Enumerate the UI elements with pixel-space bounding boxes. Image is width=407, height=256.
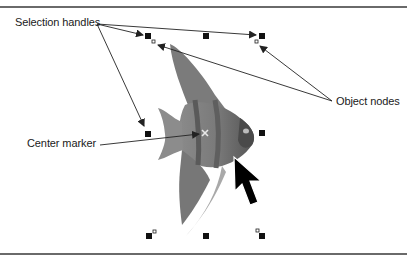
handle-bottom-center[interactable]	[203, 233, 209, 239]
node-bottom-right[interactable]	[256, 229, 259, 232]
angelfish-image	[158, 44, 254, 236]
handle-top-right[interactable]	[259, 33, 265, 39]
figure-canvas: Selection handles Object nodes Center ma…	[0, 0, 407, 256]
label-center-marker: Center marker	[27, 137, 96, 149]
handle-middle-left[interactable]	[145, 131, 151, 137]
handle-bottom-right[interactable]	[259, 233, 265, 239]
label-selection-handles: Selection handles	[15, 16, 100, 28]
handle-middle-right[interactable]	[259, 130, 265, 136]
handle-top-left[interactable]	[145, 33, 151, 39]
node-bottom-left[interactable]	[153, 230, 156, 233]
node-top-right[interactable]	[255, 40, 258, 43]
diagram-graphic	[0, 0, 407, 256]
handle-bottom-left[interactable]	[146, 233, 152, 239]
label-object-nodes: Object nodes	[336, 95, 400, 107]
arrow-pointer-icon	[234, 157, 261, 205]
node-top-left[interactable]	[152, 40, 155, 43]
handle-top-center[interactable]	[203, 33, 209, 39]
